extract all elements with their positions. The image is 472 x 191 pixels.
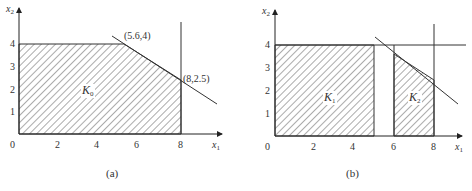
x-tick-8-b: 8 bbox=[431, 142, 436, 152]
y-tick-2-b: 2 bbox=[265, 86, 270, 96]
region-label-k0: K0 bbox=[81, 84, 95, 98]
origin-label-a: 0 bbox=[10, 140, 15, 150]
x-tick-2-a: 2 bbox=[55, 140, 60, 150]
caption-a: (a) bbox=[106, 167, 118, 179]
x-tick-6-a: 6 bbox=[134, 140, 139, 150]
panel-b bbox=[275, 10, 466, 136]
origin-label-b: 0 bbox=[265, 142, 270, 152]
x-axis-label-a: x1 bbox=[212, 140, 220, 152]
caption-b: (b) bbox=[346, 167, 359, 179]
diagram-canvas bbox=[0, 0, 472, 191]
x-tick-2-b: 2 bbox=[311, 142, 316, 152]
panel-a bbox=[19, 8, 222, 134]
x-tick-6-b: 6 bbox=[391, 142, 396, 152]
y-tick-1-a: 1 bbox=[10, 107, 15, 117]
y-tick-1-b: 1 bbox=[265, 109, 270, 119]
x-tick-4-a: 4 bbox=[94, 140, 99, 150]
region-label-k2: K2 bbox=[408, 91, 422, 105]
x-axis-label-b: x1 bbox=[455, 142, 463, 154]
y-tick-2-a: 2 bbox=[10, 85, 15, 95]
y-axis-label-a: x2 bbox=[6, 4, 14, 16]
y-tick-3-a: 3 bbox=[10, 62, 15, 72]
point-label-8-2.5: (8,2.5) bbox=[183, 74, 210, 84]
y-tick-4-a: 4 bbox=[10, 39, 15, 49]
y-axis-label-b: x2 bbox=[262, 6, 270, 18]
y-tick-3-b: 3 bbox=[265, 63, 270, 73]
region-label-k1: K1 bbox=[323, 91, 337, 105]
y-tick-4-b: 4 bbox=[265, 40, 270, 50]
x-tick-8-a: 8 bbox=[178, 140, 183, 150]
region-k0 bbox=[19, 44, 181, 134]
x-tick-4-b: 4 bbox=[350, 142, 355, 152]
point-label-5.6-4: (5.6,4) bbox=[124, 31, 151, 41]
